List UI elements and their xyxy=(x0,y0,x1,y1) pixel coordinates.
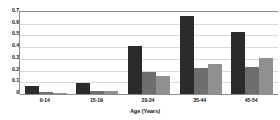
y-axis-tick-label: 0.1 xyxy=(2,79,19,84)
bar-group xyxy=(128,12,170,94)
bar xyxy=(104,91,118,95)
bar xyxy=(231,32,245,94)
bar xyxy=(180,16,194,94)
bar xyxy=(39,92,53,94)
x-axis-title: Age (Years) xyxy=(0,108,280,114)
x-axis-tick-label: 45-54 xyxy=(231,98,271,103)
plot-area xyxy=(19,11,278,94)
y-axis-tick-label: 0.6 xyxy=(2,20,19,25)
x-axis-line xyxy=(20,94,278,95)
bar-group xyxy=(25,12,67,94)
bar-group xyxy=(76,12,118,94)
bars-layer xyxy=(20,12,278,94)
bar-chart: 0.70.60.50.40.30.20.10 0-1415-1920-3435-… xyxy=(0,0,280,120)
y-axis-tick-label: 0.4 xyxy=(2,44,19,49)
bar xyxy=(245,67,259,94)
bar xyxy=(156,76,170,94)
x-axis-tick-label: 0-14 xyxy=(25,98,65,103)
bar xyxy=(25,86,39,94)
x-axis-tick-label: 15-19 xyxy=(76,98,116,103)
y-axis-tick-label: 0.3 xyxy=(2,55,19,60)
bar xyxy=(259,58,273,94)
bar xyxy=(53,93,67,94)
x-axis-tick-label: 35-44 xyxy=(180,98,220,103)
y-axis-tick-label: 0.7 xyxy=(2,8,19,13)
bar xyxy=(90,91,104,95)
bar xyxy=(194,68,208,94)
y-axis-tick-label: 0 xyxy=(2,90,19,95)
bar xyxy=(208,64,222,94)
bar xyxy=(128,46,142,94)
bar xyxy=(76,83,90,94)
bar-group xyxy=(231,12,273,94)
y-axis-tick-label: 0.5 xyxy=(2,32,19,37)
y-axis-tick-label: 0.2 xyxy=(2,67,19,72)
y-axis: 0.70.60.50.40.30.20.10 xyxy=(0,0,19,120)
x-axis-tick-label: 20-34 xyxy=(128,98,168,103)
bar xyxy=(142,72,156,94)
bar-group xyxy=(180,12,222,94)
